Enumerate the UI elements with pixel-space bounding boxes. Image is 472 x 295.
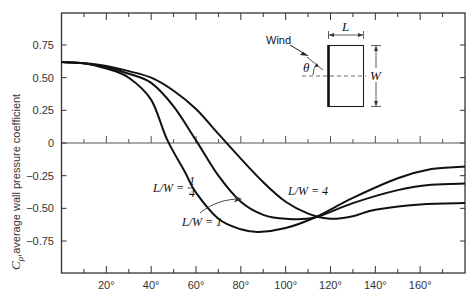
x-tick-label: 120° bbox=[319, 279, 342, 291]
y-tick-label: 0.75 bbox=[33, 39, 54, 51]
length-label: L bbox=[341, 19, 349, 34]
y-axis-label: Cp,average wall pressure coefficient bbox=[8, 94, 25, 270]
data-curves bbox=[62, 62, 466, 232]
x-tick-label: 140° bbox=[364, 279, 387, 291]
width-label: W bbox=[370, 68, 382, 83]
y-tick-label: 0.25 bbox=[33, 104, 54, 116]
theta-label: θ bbox=[303, 60, 310, 75]
svg-text:L/W =: L/W = bbox=[152, 181, 184, 195]
wind-arrowhead-icon bbox=[300, 52, 309, 56]
label-lw-one: L/W = 1 bbox=[181, 215, 222, 229]
y-tick-label: −0.75 bbox=[26, 235, 54, 247]
wind-direction-line bbox=[307, 57, 323, 70]
x-tick-label: 60° bbox=[188, 279, 205, 291]
wind-label: Wind bbox=[266, 34, 291, 46]
x-tick-label: 20° bbox=[98, 279, 115, 291]
x-axis-ticks: 20°40°60°80°100°120°140°160° bbox=[84, 13, 443, 291]
x-tick-label: 80° bbox=[233, 279, 250, 291]
x-tick-label: 100° bbox=[274, 279, 297, 291]
label-lw-quarter: L/W = 1 4 bbox=[152, 174, 195, 200]
y-tick-label: 0.50 bbox=[33, 72, 54, 84]
y-tick-label: −0.50 bbox=[26, 202, 54, 214]
pressure-coefficient-chart: 20°40°60°80°100°120°140°160° 0.750.500.2… bbox=[0, 0, 472, 295]
label-lw-four: L/W = 4 bbox=[287, 184, 328, 198]
y-tick-label: 0 bbox=[48, 137, 54, 149]
svg-text:4: 4 bbox=[189, 186, 195, 200]
x-tick-label: 40° bbox=[143, 279, 160, 291]
y-tick-label: −0.25 bbox=[26, 170, 54, 182]
inset-diagram: Wind θ L W bbox=[266, 19, 382, 107]
x-tick-label: 160° bbox=[409, 279, 432, 291]
